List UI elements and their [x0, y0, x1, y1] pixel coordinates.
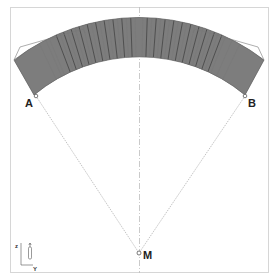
line-b-m: [139, 96, 245, 253]
point-m-marker: [137, 251, 141, 255]
axis-z-label: z: [15, 243, 18, 249]
axis-y-label: Y: [33, 266, 37, 272]
point-a-marker: [34, 94, 38, 98]
axis-indicator-icon: [21, 243, 33, 265]
diagram-canvas: A B M z Y: [0, 0, 279, 280]
point-b-label: B: [248, 98, 256, 109]
point-m-label: M: [143, 250, 152, 261]
point-b-marker: [243, 94, 247, 98]
point-a-label: A: [25, 98, 33, 109]
arch-body: [0, 0, 279, 253]
line-a-m: [36, 96, 139, 253]
arch-drawing: [0, 0, 279, 280]
